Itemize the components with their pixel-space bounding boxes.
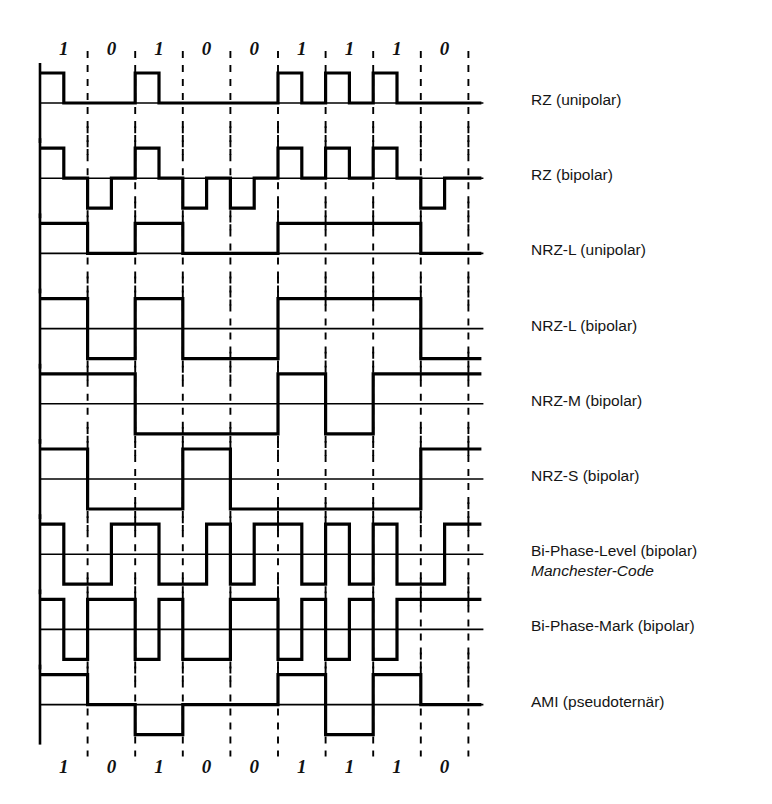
- row-label-main-nrz-l-unipolar: NRZ-L (unipolar): [531, 241, 646, 258]
- bit-label-top-5: 1: [290, 38, 314, 60]
- bit-label-top-8: 0: [433, 38, 457, 60]
- waveform-row-rz-unipolar: [40, 51, 483, 155]
- row-label-main-nrz-s-bipolar: NRZ-S (bipolar): [531, 467, 640, 484]
- row-label-main-nrz-m-bipolar: NRZ-M (bipolar): [531, 392, 642, 409]
- row-label-ami: AMI (pseudoternär): [531, 692, 665, 712]
- bit-label-top-3: 0: [195, 38, 219, 60]
- bit-label-bottom-3: 0: [195, 756, 219, 778]
- bit-label-bottom-8: 0: [433, 756, 457, 778]
- bit-label-bottom-1: 0: [99, 756, 123, 778]
- waveform-row-nrz-l-bipolar: [40, 277, 483, 381]
- waveform-row-nrz-m-bipolar: [40, 352, 483, 456]
- waveform-plot: [0, 0, 772, 804]
- waveform-row-bi-phase-level: [40, 502, 483, 606]
- bit-label-top-1: 0: [99, 38, 123, 60]
- bit-label-bottom-5: 1: [290, 756, 314, 778]
- row-label-rz-bipolar: RZ (bipolar): [531, 165, 613, 185]
- row-label-nrz-s-bipolar: NRZ-S (bipolar): [531, 466, 640, 486]
- bit-label-bottom-0: 1: [52, 756, 76, 778]
- row-label-main-rz-unipolar: RZ (unipolar): [531, 91, 621, 108]
- waveform-row-bi-phase-mark: [40, 577, 483, 681]
- row-label-main-bi-phase-mark: Bi-Phase-Mark (bipolar): [531, 617, 695, 634]
- row-label-main-rz-bipolar: RZ (bipolar): [531, 166, 613, 183]
- bit-label-top-4: 0: [242, 38, 266, 60]
- row-label-rz-unipolar: RZ (unipolar): [531, 90, 621, 110]
- bit-label-bottom-4: 0: [242, 756, 266, 778]
- row-label-bi-phase-level: Bi-Phase-Level (bipolar)Manchester-Code: [531, 541, 697, 581]
- row-sublabel-bi-phase-level: Manchester-Code: [531, 561, 697, 581]
- bit-label-top-2: 1: [147, 38, 171, 60]
- waveform-row-nrz-s-bipolar: [40, 427, 483, 531]
- waveform-row-ami: [40, 653, 483, 757]
- waveform-row-nrz-l-unipolar: [40, 201, 483, 305]
- row-label-nrz-l-unipolar: NRZ-L (unipolar): [531, 240, 646, 260]
- line-code-diagram: 101001110 101001110 RZ (unipolar)RZ (bip…: [0, 0, 772, 804]
- bit-label-bottom-6: 1: [337, 756, 361, 778]
- waveform-row-rz-bipolar: [40, 126, 483, 230]
- row-label-nrz-l-bipolar: NRZ-L (bipolar): [531, 316, 637, 336]
- row-label-nrz-m-bipolar: NRZ-M (bipolar): [531, 391, 642, 411]
- waveform-trace-rz-unipolar: [40, 73, 481, 103]
- bit-label-bottom-2: 1: [147, 756, 171, 778]
- row-label-main-nrz-l-bipolar: NRZ-L (bipolar): [531, 317, 637, 334]
- bit-label-bottom-7: 1: [385, 756, 409, 778]
- waveform-trace-nrz-l-unipolar: [40, 223, 481, 253]
- bit-label-top-0: 1: [52, 38, 76, 60]
- row-label-bi-phase-mark: Bi-Phase-Mark (bipolar): [531, 616, 695, 636]
- bit-label-top-7: 1: [385, 38, 409, 60]
- row-label-main-ami: AMI (pseudoternär): [531, 693, 665, 710]
- bit-label-top-6: 1: [337, 38, 361, 60]
- row-label-main-bi-phase-level: Bi-Phase-Level (bipolar): [531, 542, 697, 559]
